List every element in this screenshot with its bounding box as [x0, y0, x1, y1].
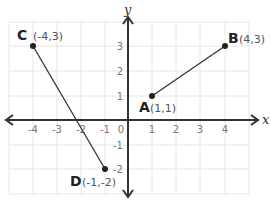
y-tick: 1 — [117, 91, 123, 102]
point-a — [149, 93, 155, 99]
x-axis-label: x — [262, 112, 270, 127]
y-tick: 3 — [117, 41, 123, 52]
segment-cd — [33, 46, 105, 169]
point-label-b: B (4,3) — [228, 30, 265, 46]
point-d — [102, 166, 108, 172]
svg-text:A: A — [139, 99, 150, 115]
svg-text:C: C — [17, 27, 27, 43]
svg-text:(-1,-2): (-1,-2) — [82, 176, 116, 189]
y-tick: -1 — [113, 140, 123, 151]
svg-text:(1,1): (1,1) — [150, 102, 176, 115]
y-tick: 2 — [117, 66, 123, 77]
svg-text:(-4,3): (-4,3) — [33, 30, 63, 43]
x-tick: 0 — [118, 124, 124, 135]
x-tick: 1 — [149, 124, 155, 135]
point-label-c: C (-4,3) — [17, 27, 63, 43]
coordinate-plane: x y -4 -3 -2 -1 0 1 2 3 4 3 2 1 -1 -2 A … — [0, 0, 271, 202]
point-label-a: A (1,1) — [139, 99, 176, 115]
x-tick: 4 — [222, 124, 228, 135]
x-tick: -4 — [28, 124, 38, 135]
x-tick: 3 — [197, 124, 203, 135]
x-tick: -1 — [100, 124, 110, 135]
y-tick: -2 — [113, 164, 123, 175]
y-axis-label: y — [123, 2, 132, 17]
y-axis — [123, 17, 133, 197]
point-label-d: D (-1,-2) — [70, 173, 116, 189]
svg-text:B: B — [228, 30, 239, 46]
svg-text:D: D — [70, 173, 82, 189]
x-axis — [6, 115, 258, 125]
x-tick: 2 — [173, 124, 179, 135]
x-tick: -3 — [52, 124, 62, 135]
point-c — [30, 43, 36, 49]
y-tick-labels: 3 2 1 -1 -2 — [113, 41, 123, 175]
svg-text:(4,3): (4,3) — [239, 33, 265, 46]
